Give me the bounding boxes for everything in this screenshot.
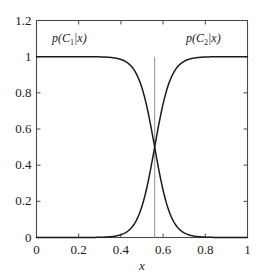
y-tick-label: 0.2 xyxy=(0,193,32,209)
x-tick-label: 0.2 xyxy=(71,242,87,258)
y-tick-label: 0 xyxy=(0,230,32,246)
x-axis-title: x xyxy=(139,258,145,274)
curve-label-class2: p(C2|x) xyxy=(186,31,221,47)
y-tick-label: 0.4 xyxy=(0,157,32,173)
posterior-probability-chart: 00.20.40.60.811.2 00.20.40.60.81 x p(C1|… xyxy=(0,0,266,280)
x-tick-label: 0.4 xyxy=(113,242,129,258)
x-tick-label: 0.6 xyxy=(155,242,171,258)
y-tick-label: 1 xyxy=(0,49,32,65)
curve-class2 xyxy=(37,57,248,238)
y-tick-label: 1.2 xyxy=(0,13,32,29)
curve-class1 xyxy=(37,57,248,238)
y-tick-label: 0.6 xyxy=(0,121,32,137)
x-tick-label: 0.8 xyxy=(197,242,213,258)
plot-canvas xyxy=(0,0,266,280)
y-tick-label: 0.8 xyxy=(0,85,32,101)
x-tick-label: 1 xyxy=(244,242,251,258)
curve-label-class1: p(C1|x) xyxy=(52,31,87,47)
x-tick-label: 0 xyxy=(33,242,40,258)
